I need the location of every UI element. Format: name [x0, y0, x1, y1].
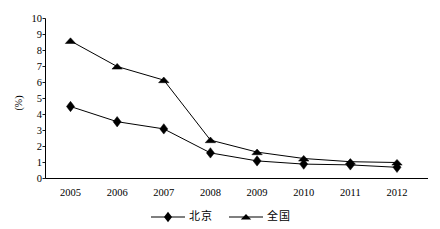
diamond-marker-icon	[253, 156, 261, 166]
diamond-marker-icon	[113, 117, 121, 127]
legend-label: 北京	[189, 211, 212, 223]
diamond-marker-icon	[67, 101, 75, 111]
chart-legend: 北京全国	[0, 207, 440, 227]
diamond-marker-icon	[160, 124, 168, 134]
triangle-marker-icon	[159, 77, 169, 83]
series-line	[71, 107, 398, 168]
data-series	[65, 38, 402, 165]
series-line	[71, 41, 398, 163]
line-chart: (%) 012345678910 20052006200720082009201…	[0, 0, 440, 229]
triangle-marker-icon	[205, 137, 215, 143]
data-series-layer	[65, 38, 402, 173]
legend-entry[interactable]: 全国	[228, 210, 290, 224]
legend-label: 全国	[267, 211, 290, 223]
axis-lines	[46, 19, 429, 179]
legend-entry[interactable]: 北京	[150, 210, 212, 224]
plot-area	[0, 0, 440, 229]
triangle-marker-icon	[65, 38, 75, 44]
triangle-marker-icon	[252, 149, 262, 155]
diamond-marker-icon	[150, 210, 186, 224]
diamond-marker-icon	[206, 148, 214, 158]
triangle-marker-icon	[228, 210, 264, 224]
